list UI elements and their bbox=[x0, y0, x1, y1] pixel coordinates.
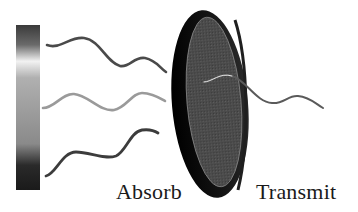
bottom-wave bbox=[46, 130, 158, 176]
spectrum-bar bbox=[16, 25, 40, 190]
incoming-waves bbox=[43, 38, 166, 176]
diagram-canvas: Absorb Transmit bbox=[0, 0, 358, 212]
absorb-label: Absorb bbox=[116, 179, 182, 205]
transmit-label: Transmit bbox=[256, 179, 336, 205]
middle-wave bbox=[43, 93, 165, 110]
top-wave bbox=[47, 38, 166, 72]
filter-disc bbox=[164, 7, 256, 201]
